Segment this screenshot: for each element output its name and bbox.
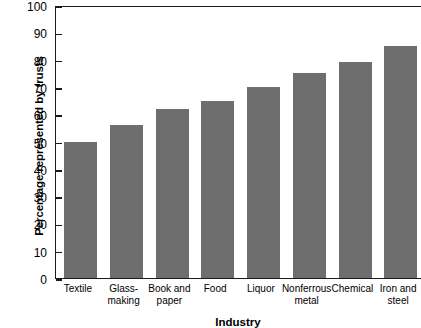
y-tick-label: 50 bbox=[34, 136, 47, 152]
y-tick-label: 40 bbox=[34, 163, 47, 179]
y-tick-label: 90 bbox=[34, 26, 47, 42]
bar bbox=[293, 73, 326, 278]
x-axis-title: Industry bbox=[55, 316, 421, 328]
y-tick-label: 100 bbox=[27, 0, 47, 15]
y-tick-label: 0 bbox=[40, 272, 47, 288]
bar bbox=[339, 62, 372, 278]
y-tick-label: 60 bbox=[34, 108, 47, 124]
y-tick-label: 20 bbox=[34, 217, 47, 233]
bar bbox=[110, 125, 143, 278]
bars-group bbox=[56, 7, 421, 278]
x-tick-label: Iron and steel bbox=[371, 283, 421, 306]
y-tick-label: 10 bbox=[34, 245, 47, 261]
y-tick-label: 80 bbox=[34, 54, 47, 70]
plot-area: 0102030405060708090100 bbox=[55, 6, 421, 279]
y-tick-mark bbox=[56, 279, 62, 281]
y-tick-label: 30 bbox=[34, 190, 47, 206]
y-tick-label: 70 bbox=[34, 81, 47, 97]
bar bbox=[247, 87, 280, 278]
bar bbox=[201, 101, 234, 278]
x-axis-tick-labels: TextileGlass- makingBook and paperFoodLi… bbox=[55, 283, 421, 315]
bar bbox=[64, 142, 97, 279]
bar bbox=[384, 46, 417, 278]
bar bbox=[156, 109, 189, 278]
